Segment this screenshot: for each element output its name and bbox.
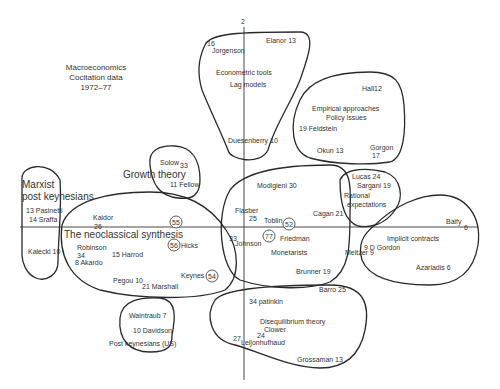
svg-text:Baify: Baify [446, 218, 462, 226]
svg-text:Cocitation data: Cocitation data [69, 73, 123, 82]
svg-text:54: 54 [208, 273, 216, 280]
svg-text:Barro 25: Barro 25 [319, 286, 346, 293]
svg-text:Keynes: Keynes [181, 272, 205, 280]
cluster-neoclassical-synthesis: Kaidor 26 55 The neoclassical synthesis … [61, 192, 236, 298]
cluster-label: Policy issues [326, 114, 367, 122]
svg-text:Robinson: Robinson [77, 244, 107, 251]
svg-text:Elanor 13: Elanor 13 [266, 37, 296, 44]
svg-text:56: 56 [170, 242, 178, 249]
diagram-title: Macroeconomics Cocitation data 1972–77 [66, 63, 126, 92]
cluster-implicit-contracts: Baify Implicit contracts 9 D Gordon Azar… [361, 195, 479, 285]
svg-text:Hicks: Hicks [181, 242, 199, 249]
svg-text:Leijonhufhaud: Leijonhufhaud [241, 339, 285, 347]
svg-text:Lucas 24: Lucas 24 [352, 173, 381, 180]
cluster-label: Marxist [22, 179, 54, 190]
cluster-label: The neoclassical synthesis [64, 229, 183, 240]
svg-text:Friedman: Friedman [280, 235, 310, 242]
cluster-label: Disequilibrium theory [260, 318, 326, 326]
cluster-label: Econometric tools [216, 69, 272, 76]
cocitation-diagram: 2 6 Macroeconomics Cocitation data 1972–… [0, 0, 500, 389]
svg-text:25: 25 [249, 215, 257, 222]
cluster-label: Lag models [230, 81, 267, 89]
svg-text:Solow: Solow [160, 159, 180, 166]
svg-text:Modigieni 30: Modigieni 30 [257, 182, 297, 190]
svg-text:Waintraub 7: Waintraub 7 [129, 312, 167, 319]
svg-text:16: 16 [207, 40, 215, 47]
cluster-label: post keynesians [22, 191, 94, 202]
svg-text:15 Harrod: 15 Harrod [112, 251, 143, 258]
svg-text:34: 34 [77, 252, 85, 259]
svg-text:Azariadis 6: Azariadis 6 [416, 264, 451, 271]
svg-text:24: 24 [257, 332, 265, 339]
svg-text:19 Feldstein: 19 Feldstein [299, 125, 337, 132]
cluster-label: Rational [344, 192, 370, 199]
svg-text:55: 55 [172, 219, 180, 226]
svg-text:21 Marshall: 21 Marshall [142, 283, 179, 290]
cluster-growth-theory: Solow 33 Growth theory 11 Fellow [123, 146, 200, 199]
svg-text:Kaidor: Kaidor [93, 214, 114, 221]
cluster-label: Implicit contracts [387, 235, 440, 243]
cluster-econometric-tools: 16 Jorgenson Elanor 13 Econometric tools… [199, 32, 310, 160]
cluster-post-keynesians-us: Waintraub 7 10 Davidson Post keynesians … [109, 298, 176, 352]
svg-text:34 patinkin: 34 patinkin [249, 298, 283, 306]
svg-text:Clower: Clower [264, 326, 286, 333]
svg-text:9 D Gordon: 9 D Gordon [364, 244, 400, 251]
svg-text:1972–77: 1972–77 [80, 83, 112, 92]
svg-text:52: 52 [285, 221, 293, 228]
cluster-label: expectations [347, 201, 387, 209]
svg-text:Duesenberry 10: Duesenberry 10 [228, 137, 278, 145]
svg-text:Toblin: Toblin [264, 217, 282, 224]
svg-text:14 Sraffa: 14 Sraffa [29, 216, 57, 223]
cluster-label: Growth theory [123, 169, 186, 180]
svg-text:Johnson: Johnson [235, 240, 262, 247]
svg-text:10 Davidson: 10 Davidson [133, 327, 172, 334]
svg-text:Pegou 10: Pegou 10 [113, 277, 143, 285]
svg-text:Flasber: Flasber [235, 207, 259, 214]
svg-text:Macroeconomics: Macroeconomics [66, 63, 126, 72]
svg-text:Okun 13: Okun 13 [317, 147, 344, 154]
svg-text:33: 33 [180, 162, 188, 169]
cluster-disequilibrium-theory: Barro 25 34 patinkin Disequilibrium theo… [210, 285, 366, 368]
svg-text:Grossaman 13: Grossaman 13 [297, 356, 343, 363]
svg-text:8 Akardo: 8 Akardo [75, 259, 103, 266]
cluster-empirical-approaches: Hall12 Empirical approaches Policy issue… [293, 72, 405, 164]
svg-text:Gorgon: Gorgon [370, 144, 393, 152]
svg-text:77: 77 [265, 233, 273, 240]
svg-text:Sargani 19: Sargani 19 [357, 182, 391, 190]
svg-text:13 Pasinetti: 13 Pasinetti [26, 207, 63, 214]
cluster-label: Monetarists [271, 249, 308, 256]
horizontal-axis-label: 6 [464, 224, 468, 231]
svg-text:17: 17 [372, 152, 380, 159]
cluster-rational-expectations: Lucas 24 Sargani 19 Rational expectation… [340, 169, 400, 226]
cluster-label: Empirical approaches [312, 105, 380, 113]
cluster-label: Post keynesians (US) [109, 340, 176, 348]
svg-text:27: 27 [233, 335, 241, 342]
vertical-axis-label: 2 [241, 18, 245, 25]
svg-text:Brunner 19: Brunner 19 [296, 268, 331, 275]
svg-text:11 Fellow: 11 Fellow [170, 181, 200, 188]
svg-text:Hall12: Hall12 [362, 85, 382, 92]
svg-text:Jorgenson: Jorgenson [212, 47, 245, 55]
svg-text:Kalecki 10: Kalecki 10 [28, 248, 60, 255]
svg-text:Cagan 21: Cagan 21 [313, 210, 343, 218]
